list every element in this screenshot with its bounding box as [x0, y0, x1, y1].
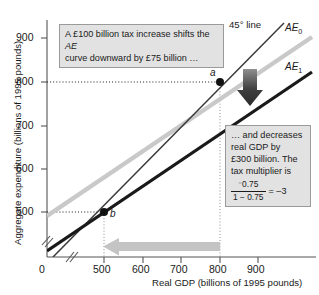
- callout-tax-increase-ae: AE: [65, 41, 77, 51]
- x-tick-label-900: 900: [247, 263, 265, 275]
- ae0-curve-label: AE0: [285, 22, 302, 36]
- ae1-label-subscript: 1: [298, 66, 302, 75]
- y-tick-label-500: 500: [16, 205, 34, 217]
- x-tick-label-500: 500: [93, 263, 111, 275]
- callout-tax-increase-text1: A £100 billion tax increase shifts the: [65, 29, 210, 39]
- y-axis-ticks: [41, 38, 47, 212]
- aggregate-expenditure-chart: Aggregate expenditure (billions of 1995 …: [0, 0, 319, 295]
- ae0-label-base: AE: [285, 22, 298, 33]
- tax-multiplier-denominator: 1 − 0.75: [231, 192, 266, 203]
- tax-multiplier-formula: ⁻0.75 1 − 0.75 = –3: [231, 179, 306, 202]
- callout-tax-increase: A £100 billion tax increase shifts the A…: [59, 24, 224, 68]
- callout-gdp-decrease: … and decreases real GDP by £300 billion…: [225, 125, 311, 207]
- y-tick-label-700: 700: [16, 119, 34, 131]
- point-b-marker: [100, 208, 108, 216]
- callout-tax-increase-line2: curve downward by £75 billion …: [65, 52, 219, 64]
- point-a-label: a: [210, 67, 216, 79]
- y-tick-label-800: 800: [16, 75, 34, 87]
- tax-multiplier-result: = –3: [269, 185, 287, 197]
- x-tick-label-700: 700: [170, 263, 188, 275]
- ae0-label-subscript: 0: [298, 27, 302, 36]
- point-a-marker: [216, 78, 224, 86]
- tax-multiplier-numerator: ⁻0.75: [231, 179, 266, 191]
- x-tick-label-600: 600: [132, 263, 150, 275]
- tax-multiplier-fraction: ⁻0.75 1 − 0.75: [231, 179, 266, 202]
- x-axis-title: Real GDP (billions of 1995 pounds): [152, 277, 302, 288]
- ae1-label-base: AE: [285, 61, 298, 72]
- y-tick-label-900: 900: [16, 31, 34, 43]
- gdp-decrease-arrow: [103, 238, 220, 256]
- x-tick-label-800: 800: [209, 263, 227, 275]
- callout-gdp-decrease-line4: tax multiplier is: [231, 165, 306, 177]
- callout-gdp-decrease-line3: £300 billion. The: [231, 153, 306, 165]
- y-tick-label-600: 600: [16, 162, 34, 174]
- callout-gdp-decrease-line2: real GDP by: [231, 141, 306, 153]
- point-b-label: b: [110, 208, 116, 220]
- ae1-curve-label: AE1: [285, 61, 302, 75]
- callout-gdp-decrease-line1: … and decreases: [231, 129, 306, 141]
- origin-zero-label: 0: [39, 263, 45, 275]
- line-45-degree-label: 45° line: [229, 19, 261, 30]
- callout-tax-increase-line1: A £100 billion tax increase shifts the A…: [65, 28, 219, 52]
